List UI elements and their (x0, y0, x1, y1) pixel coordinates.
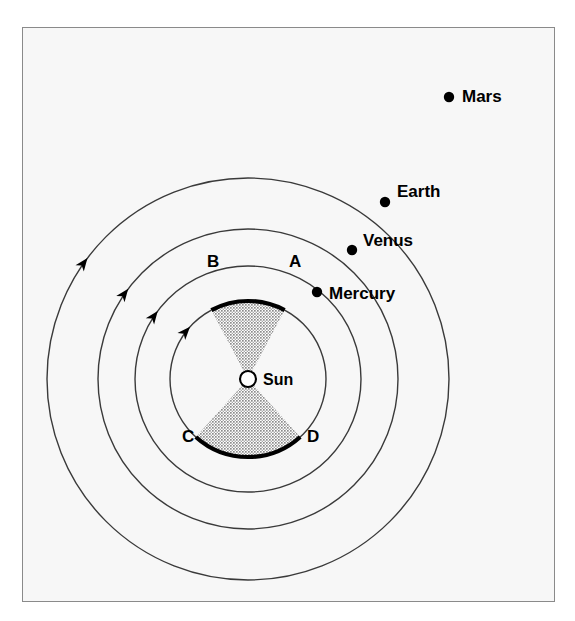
planet-label-earth: Earth (397, 182, 440, 201)
solar-system-svg: MarsEarthVenusMercuryABCDSun (23, 28, 555, 602)
labels-group: MarsEarthVenusMercuryABCDSun (182, 87, 502, 446)
direction-arrow-icon-earth (116, 289, 128, 303)
planet-dot-venus[interactable] (347, 245, 357, 255)
planet-label-mars: Mars (462, 87, 502, 106)
sun-label: Sun (263, 371, 293, 388)
sun-marker[interactable] (240, 371, 256, 387)
point-label-d: D (307, 427, 319, 446)
planet-label-mercury: Mercury (329, 284, 396, 303)
planet-dot-mars[interactable] (444, 92, 454, 102)
planet-label-venus: Venus (363, 231, 413, 250)
direction-arrow-icon-venus (146, 311, 158, 325)
diagram-page: MarsEarthVenusMercuryABCDSun (0, 0, 575, 621)
point-label-a: A (289, 252, 301, 271)
sun-marker-group (240, 371, 256, 387)
shaded-sector-lower-sector (196, 379, 300, 457)
diagram-frame: MarsEarthVenusMercuryABCDSun (22, 27, 555, 602)
planet-dot-earth[interactable] (380, 197, 390, 207)
orbit-direction-arrows-group (75, 258, 190, 340)
point-label-c: C (182, 427, 194, 446)
direction-arrow-icon-mercury (177, 327, 190, 340)
shaded-sector-upper-sector (211, 301, 284, 379)
direction-arrow-icon-mars (75, 258, 87, 272)
point-label-b: B (207, 252, 219, 271)
planet-dot-mercury[interactable] (312, 287, 322, 297)
